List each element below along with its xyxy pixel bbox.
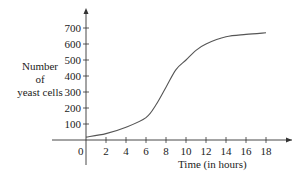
y-axis-label-line: Number bbox=[8, 60, 72, 73]
x-axis-arrow-icon bbox=[286, 138, 292, 143]
x-tick-label: 12 bbox=[201, 145, 212, 157]
origin-label: 0 bbox=[78, 145, 84, 157]
data-line bbox=[86, 33, 266, 137]
x-tick-label: 10 bbox=[181, 145, 193, 157]
x-tick-label: 8 bbox=[163, 145, 169, 157]
y-axis-label-line: yeast cells bbox=[8, 86, 72, 99]
y-axis-arrow-icon bbox=[84, 8, 89, 14]
y-axis-label: Number of yeast cells bbox=[8, 60, 72, 99]
x-tick-label: 18 bbox=[261, 145, 273, 157]
x-tick-label: 14 bbox=[221, 145, 233, 157]
y-tick-label: 600 bbox=[65, 38, 82, 50]
y-tick-label: 200 bbox=[65, 102, 82, 114]
x-tick-label: 6 bbox=[143, 145, 149, 157]
x-axis-label: Time (in hours) bbox=[178, 158, 247, 170]
y-tick-label: 100 bbox=[65, 118, 82, 130]
x-tick-label: 2 bbox=[103, 145, 109, 157]
y-axis-label-line: of bbox=[8, 73, 72, 86]
x-tick-label: 16 bbox=[241, 145, 253, 157]
x-tick-label: 4 bbox=[123, 145, 129, 157]
y-tick-label: 700 bbox=[65, 22, 82, 34]
ticks: 024681012141618100200300400500600700 bbox=[65, 22, 273, 157]
axes bbox=[52, 8, 292, 165]
